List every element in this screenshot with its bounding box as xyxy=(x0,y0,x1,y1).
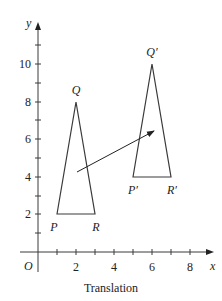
origin-label: O xyxy=(24,259,33,273)
y-tick-label: 2 xyxy=(25,207,31,221)
y-axis-label: y xyxy=(25,16,32,30)
vertex-label-q-prime: Q′ xyxy=(146,45,158,59)
x-axis-label: x xyxy=(209,259,216,273)
y-tick-label: 4 xyxy=(25,170,31,184)
translation-arrow xyxy=(77,131,154,172)
y-tick-label: 8 xyxy=(25,95,31,109)
triangle-pqr-prime: P′ Q′ R′ xyxy=(127,45,177,197)
x-axis-arrow-icon xyxy=(206,249,214,255)
y-tick-label: 10 xyxy=(19,57,31,71)
translation-diagram: 2 4 6 8 2 4 6 8 10 x y O P Q R P′ Q′ R′ … xyxy=(0,0,222,301)
x-tick-label: 4 xyxy=(111,260,117,274)
vertex-label-r: R xyxy=(91,220,100,234)
vertex-label-q: Q xyxy=(72,83,81,97)
y-tick-label: 6 xyxy=(25,132,31,146)
x-tick-label: 6 xyxy=(149,260,155,274)
y-axis-arrow-icon xyxy=(35,22,41,30)
triangle-pqr: P Q R xyxy=(49,83,100,234)
vertex-label-p-prime: P′ xyxy=(127,183,138,197)
x-tick-label: 2 xyxy=(73,260,79,274)
vertex-label-r-prime: R′ xyxy=(166,183,177,197)
axes: 2 4 6 8 2 4 6 8 10 x y O xyxy=(19,16,216,274)
vertex-label-p: P xyxy=(49,220,58,234)
figure-caption: Translation xyxy=(84,281,138,295)
x-tick-label: 8 xyxy=(187,260,193,274)
